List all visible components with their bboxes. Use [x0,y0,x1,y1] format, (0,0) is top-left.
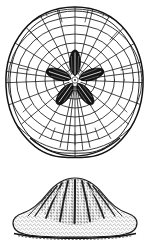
figure-aboral-view [0,0,149,165]
madreporite-dot [74,79,76,81]
illustration-plate [0,0,149,243]
figure-lateral-view [0,165,149,243]
